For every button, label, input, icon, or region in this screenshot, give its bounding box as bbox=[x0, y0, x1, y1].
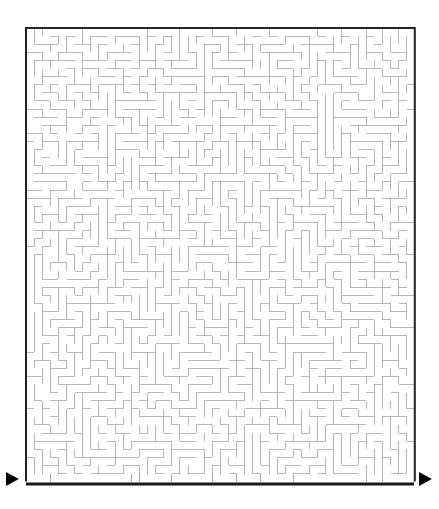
maze-graphic[interactable] bbox=[0, 0, 439, 509]
maze-puzzle bbox=[0, 0, 439, 509]
maze-canvas[interactable] bbox=[0, 0, 439, 509]
